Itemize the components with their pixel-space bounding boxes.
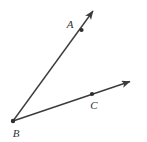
point-dot-A bbox=[79, 28, 83, 32]
point-label-B: B bbox=[13, 128, 20, 139]
point-label-A: A bbox=[67, 19, 74, 30]
point-label-C: C bbox=[90, 100, 97, 111]
point-dot-C bbox=[90, 92, 94, 96]
geometry-figure-canvas: A B C bbox=[0, 0, 147, 142]
ray-BA bbox=[13, 11, 93, 121]
point-dot-B bbox=[11, 119, 15, 123]
ray-BC bbox=[13, 82, 130, 122]
